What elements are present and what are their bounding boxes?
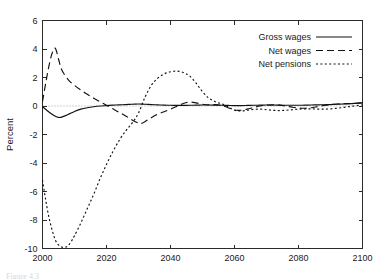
series-line-net-wages: [43, 48, 363, 123]
series-line-net-pensions: [43, 71, 363, 247]
legend-label-net-wages: Net wages: [268, 46, 311, 56]
y-tick-label: 2: [32, 73, 37, 83]
plot-frame: [43, 21, 363, 249]
x-tick-label: 2000: [32, 253, 52, 263]
legend-label-gross-wages: Gross wages: [258, 32, 311, 42]
y-tick-label: 0: [32, 101, 37, 111]
y-tick-label: -4: [29, 158, 37, 168]
x-tick-label: 2100: [352, 253, 372, 263]
figure-container: 6420-2-4-6-8-10200020202040206020802100P…: [0, 0, 379, 279]
figure-caption-partial: Figure 4.3: [6, 272, 39, 279]
y-tick-label: 4: [32, 44, 37, 54]
x-tick-label: 2040: [160, 253, 180, 263]
y-tick-label: -2: [29, 130, 37, 140]
series-line-gross-wages: [43, 103, 363, 118]
y-tick-label: -8: [29, 215, 37, 225]
y-tick-label: 6: [32, 16, 37, 26]
y-tick-label: -6: [29, 187, 37, 197]
x-tick-label: 2080: [288, 253, 308, 263]
y-axis-title: Percent: [4, 118, 15, 151]
x-tick-label: 2060: [224, 253, 244, 263]
line-chart: 6420-2-4-6-8-10200020202040206020802100P…: [0, 0, 379, 279]
x-tick-label: 2020: [96, 253, 116, 263]
legend-label-net-pensions: Net pensions: [258, 59, 311, 69]
